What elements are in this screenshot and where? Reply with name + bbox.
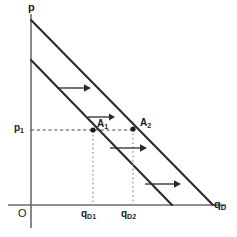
point-label-a1: A1 xyxy=(97,119,108,129)
point-label-a2: A2 xyxy=(140,118,151,128)
price-axis-label: p xyxy=(28,2,35,13)
origin-label: O xyxy=(18,208,27,219)
shift-arrow-3 xyxy=(110,144,147,152)
quantity-axis-label: qD xyxy=(214,199,226,210)
shifted-demand-curve xyxy=(31,20,213,205)
figure-canvas xyxy=(0,0,237,237)
quantity-tick-label-2: qD2 xyxy=(121,209,136,219)
price-level-label: p1 xyxy=(14,123,24,133)
point-marker-a1 xyxy=(90,127,95,132)
quantity-tick-label-1: qD1 xyxy=(81,209,96,219)
demand-shift-figure: p qD O p1 A1 A2 qD1 qD2 xyxy=(0,0,237,237)
point-marker-a2 xyxy=(130,126,135,131)
initial-demand-curve xyxy=(31,60,172,205)
